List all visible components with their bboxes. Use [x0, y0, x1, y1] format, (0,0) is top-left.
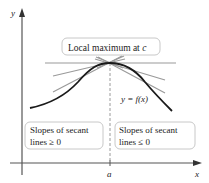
y-axis-label: y	[10, 8, 15, 18]
left-box-line2: lines ≥ 0	[30, 137, 61, 147]
curve-f-of-x	[30, 63, 172, 111]
right-box-line1: Slopes of secant	[119, 125, 178, 135]
left-slopes-box: Slopes of secant lines ≥ 0	[25, 122, 103, 149]
curve-label: y = f(x)	[120, 94, 148, 104]
y-axis-arrow-icon	[19, 8, 25, 17]
right-box-line2: lines ≤ 0	[119, 137, 150, 147]
axes	[10, 8, 202, 175]
local-maximum-text: Local maximum at	[68, 43, 142, 53]
right-slopes-box: Slopes of secant lines ≤ 0	[115, 122, 195, 149]
left-box-line1: Slopes of secant	[30, 125, 89, 135]
secant-right-1	[95, 59, 165, 80]
svg-text:Local maximum at c: Local maximum at c	[68, 43, 147, 53]
x-axis-arrow-icon	[193, 160, 202, 166]
x-axis-label: x	[194, 169, 199, 179]
x-tick-label-a: a	[107, 169, 112, 179]
local-maximum-diagram: Local maximum at c y = f(x) Slopes of se…	[0, 0, 209, 183]
local-maximum-label: Local maximum at c	[62, 38, 160, 55]
